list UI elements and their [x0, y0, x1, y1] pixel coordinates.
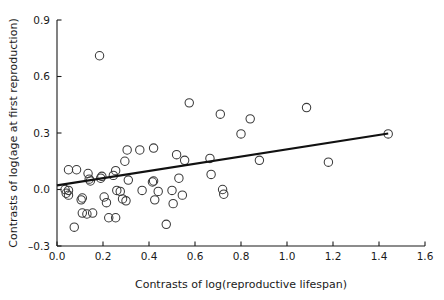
data-point [237, 130, 245, 138]
y-tick-label: 0.9 [33, 14, 50, 26]
data-point [168, 186, 176, 194]
data-point [70, 223, 78, 231]
data-point [95, 52, 103, 60]
plot-canvas: 0.00.20.40.60.81.01.21.41.6–0.30.00.30.6… [0, 0, 444, 300]
data-point [302, 103, 310, 111]
data-point [138, 186, 146, 194]
x-tick-label: 0.6 [187, 250, 204, 262]
fit-line [57, 134, 388, 186]
data-point [102, 198, 110, 206]
data-point [220, 190, 228, 198]
x-tick-label: 1.0 [279, 250, 296, 262]
data-point [180, 156, 188, 164]
data-point [64, 166, 72, 174]
y-axis-title: Contrasts of log(age at first reproducti… [7, 18, 20, 247]
y-tick-label: –0.3 [28, 240, 50, 252]
data-point [172, 150, 180, 158]
y-tick-label: 0.0 [33, 183, 50, 195]
y-tick-label: 0.6 [33, 70, 50, 82]
data-point [255, 156, 263, 164]
data-point [175, 174, 183, 182]
data-point [185, 99, 193, 107]
x-tick-label: 1.6 [417, 250, 434, 262]
axes [57, 20, 425, 246]
data-point [88, 209, 96, 217]
x-tick-label: 0.0 [49, 250, 66, 262]
data-point [207, 170, 215, 178]
data-point [149, 144, 157, 152]
y-tick-label: 0.3 [33, 127, 50, 139]
data-point [216, 110, 224, 118]
data-point [151, 196, 159, 204]
data-point [100, 193, 108, 201]
data-point [178, 191, 186, 199]
data-point [123, 146, 131, 154]
regression-line [57, 134, 388, 186]
data-point [324, 158, 332, 166]
x-tick-label: 1.2 [325, 250, 342, 262]
tick-labels: 0.00.20.40.60.81.01.21.41.6–0.30.00.30.6… [28, 14, 434, 262]
data-point [111, 166, 119, 174]
data-point [136, 146, 144, 154]
x-tick-label: 0.2 [95, 250, 112, 262]
data-point [72, 166, 80, 174]
data-point [121, 157, 129, 165]
data-point [246, 115, 254, 123]
data-point [169, 199, 177, 207]
data-point [162, 220, 170, 228]
x-tick-label: 1.4 [371, 250, 388, 262]
x-axis-title: Contrasts of log(reproductive lifespan) [135, 278, 347, 291]
tick-marks [57, 20, 425, 246]
x-tick-label: 0.4 [141, 250, 158, 262]
data-point [124, 176, 132, 184]
x-tick-label: 0.8 [233, 250, 250, 262]
data-point [154, 187, 162, 195]
scatter-plot-figure: 0.00.20.40.60.81.01.21.41.6–0.30.00.30.6… [0, 0, 444, 300]
